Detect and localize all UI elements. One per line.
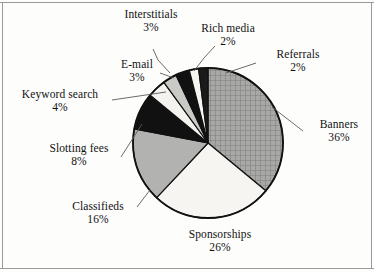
slice-label-sponsorships-name: Sponsorships xyxy=(176,228,264,241)
slice-label-referrals-name: Referrals xyxy=(258,48,338,61)
slice-label-slotting-fees: Slotting fees 8% xyxy=(38,142,120,168)
slice-label-sponsorships: Sponsorships 26% xyxy=(176,228,264,254)
slice-label-email-name: E-mail xyxy=(110,58,164,71)
slice-label-interstitials-name: Interstitials xyxy=(108,8,194,21)
slice-label-slotting-fees-name: Slotting fees xyxy=(38,142,120,155)
slice-label-classifieds-name: Classifieds xyxy=(62,200,134,213)
leader-line-classifieds xyxy=(137,190,150,207)
slice-label-referrals-value: 2% xyxy=(258,61,338,74)
pie-slices xyxy=(133,68,283,218)
slice-label-sponsorships-value: 26% xyxy=(176,241,264,254)
slice-label-rich-media-name: Rich media xyxy=(186,22,270,35)
slice-label-rich-media-value: 2% xyxy=(186,35,270,48)
leader-line-referrals xyxy=(226,63,256,73)
slice-label-email-value: 3% xyxy=(110,71,164,84)
slice-label-rich-media: Rich media 2% xyxy=(186,22,270,48)
slice-label-banners-value: 36% xyxy=(306,131,372,144)
slice-label-banners: Banners 36% xyxy=(306,118,372,144)
slice-label-referrals: Referrals 2% xyxy=(258,48,338,74)
slice-label-interstitials-value: 3% xyxy=(108,21,194,34)
slice-label-classifieds: Classifieds 16% xyxy=(62,200,134,226)
slice-label-keyword-search: Keyword search 4% xyxy=(8,88,112,114)
slice-label-interstitials: Interstitials 3% xyxy=(108,8,194,34)
slice-label-keyword-search-value: 4% xyxy=(8,101,112,114)
pie-chart-figure: Interstitials 3% Rich media 2% Referrals… xyxy=(0,0,374,273)
slice-label-email: E-mail 3% xyxy=(110,58,164,84)
slice-label-slotting-fees-value: 8% xyxy=(38,155,120,168)
slice-label-classifieds-value: 16% xyxy=(62,213,134,226)
slice-label-keyword-search-name: Keyword search xyxy=(8,88,112,101)
slice-label-banners-name: Banners xyxy=(306,118,372,131)
